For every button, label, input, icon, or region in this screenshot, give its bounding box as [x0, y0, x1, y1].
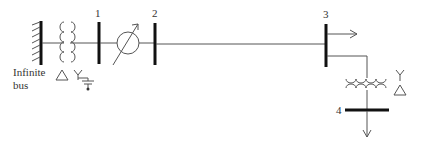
delta-icon-2: [394, 85, 406, 95]
wye-grounded-icon: [74, 70, 94, 88]
wye-icon: [396, 70, 404, 81]
transformer-1-icon: [60, 22, 75, 62]
delta-icon: [56, 70, 68, 80]
line-bus3-t2: [327, 56, 367, 78]
ground-dot: [87, 88, 90, 91]
bus-1-label: 1: [95, 7, 101, 19]
one-line-diagram: Infinite bus 1 2 3: [0, 0, 421, 145]
infinite-bus-label-line2: bus: [13, 79, 28, 91]
bus-4-label: 4: [336, 104, 342, 116]
infinite-bus-label-line1: Infinite: [13, 66, 45, 78]
load-arrow-bus-4-icon: [363, 111, 371, 137]
transformer-2-icon: [346, 79, 386, 88]
load-arrow-bus-3-icon: [327, 30, 357, 38]
bus-2-label: 2: [152, 7, 158, 19]
infinite-bus: [32, 21, 41, 65]
bus-3-label: 3: [323, 8, 329, 20]
phase-shifter-icon: [113, 24, 139, 65]
